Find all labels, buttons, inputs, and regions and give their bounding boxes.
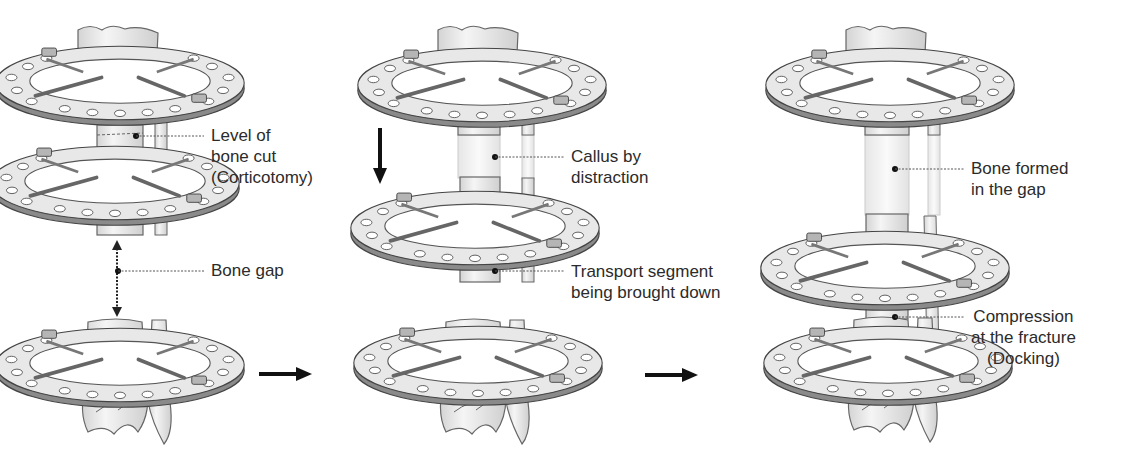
label-level-of-bone-cut: Level of bone cut (Corticotomy) — [211, 125, 313, 188]
label-line: Callus by — [571, 146, 648, 167]
diagram-canvas — [0, 0, 1124, 475]
label-line: Level of — [211, 125, 313, 146]
label-compression-docking: Compression at the fracture (Docking) — [971, 306, 1076, 369]
label-transport-segment: Transport segment being brought down — [571, 261, 720, 303]
stage-2-illustration — [351, 26, 606, 444]
label-callus-by-distraction: Callus by distraction — [571, 146, 648, 188]
label-line: Transport segment — [571, 261, 720, 282]
label-line: (Corticotomy) — [211, 167, 313, 188]
stage-1-to-2-arrow — [259, 367, 312, 381]
stage-1-illustration — [0, 26, 244, 444]
label-line: in the gap — [971, 179, 1068, 200]
stage-3-illustration — [761, 26, 1014, 442]
label-line: bone cut — [211, 146, 313, 167]
label-bone-formed: Bone formed in the gap — [971, 158, 1068, 200]
label-line: at the fracture — [971, 327, 1076, 348]
label-line: being brought down — [571, 282, 720, 303]
transport-direction-arrow — [373, 128, 387, 184]
label-line: (Docking) — [971, 348, 1076, 369]
label-line: Bone gap — [211, 260, 284, 281]
stage-2-to-3-arrow — [645, 368, 698, 382]
label-line: distraction — [571, 167, 648, 188]
label-line: Compression — [971, 306, 1076, 327]
label-bone-gap: Bone gap — [211, 260, 284, 281]
label-line: Bone formed — [971, 158, 1068, 179]
